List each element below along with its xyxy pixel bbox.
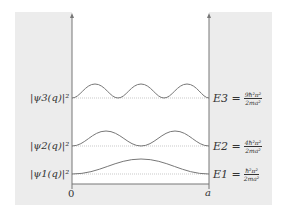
energy-e3-fraction: 9ħ²π² 2ma² xyxy=(244,91,262,106)
x-label-a: a xyxy=(205,187,211,198)
energy-e2-num: 4ħ²π² xyxy=(244,139,262,147)
floor-region xyxy=(72,184,209,205)
energy-e1: E1 = ħ²π² 2ma² xyxy=(213,167,259,182)
energy-e1-den: 2ma² xyxy=(244,175,260,182)
energy-e1-num: ħ²π² xyxy=(244,167,259,175)
energy-e1-fraction: ħ²π² 2ma² xyxy=(244,167,260,182)
energy-e3-lhs: E3 = xyxy=(213,92,241,105)
energy-e1-lhs: E1 = xyxy=(213,168,241,181)
x-label-zero: 0 xyxy=(68,188,74,199)
energy-e3-num: 9ħ²π² xyxy=(244,91,262,99)
energy-e2-den: 2ma² xyxy=(245,147,261,154)
energy-e2: E2 = 4ħ²π² 2ma² xyxy=(213,139,262,154)
psi2-curve xyxy=(72,131,209,146)
energy-e2-lhs: E2 = xyxy=(213,140,241,153)
label-psi2: |ψ2(q)|² xyxy=(30,140,69,151)
energy-e3: E3 = 9ħ²π² 2ma² xyxy=(213,91,262,106)
psi1-curve xyxy=(72,159,209,174)
label-psi3: |ψ3(q)|² xyxy=(30,92,69,103)
energy-e3-den: 2ma² xyxy=(245,99,261,106)
psi3-curve xyxy=(72,84,209,98)
label-psi1: |ψ1(q)|² xyxy=(30,168,69,179)
energy-e2-fraction: 4ħ²π² 2ma² xyxy=(244,139,262,154)
